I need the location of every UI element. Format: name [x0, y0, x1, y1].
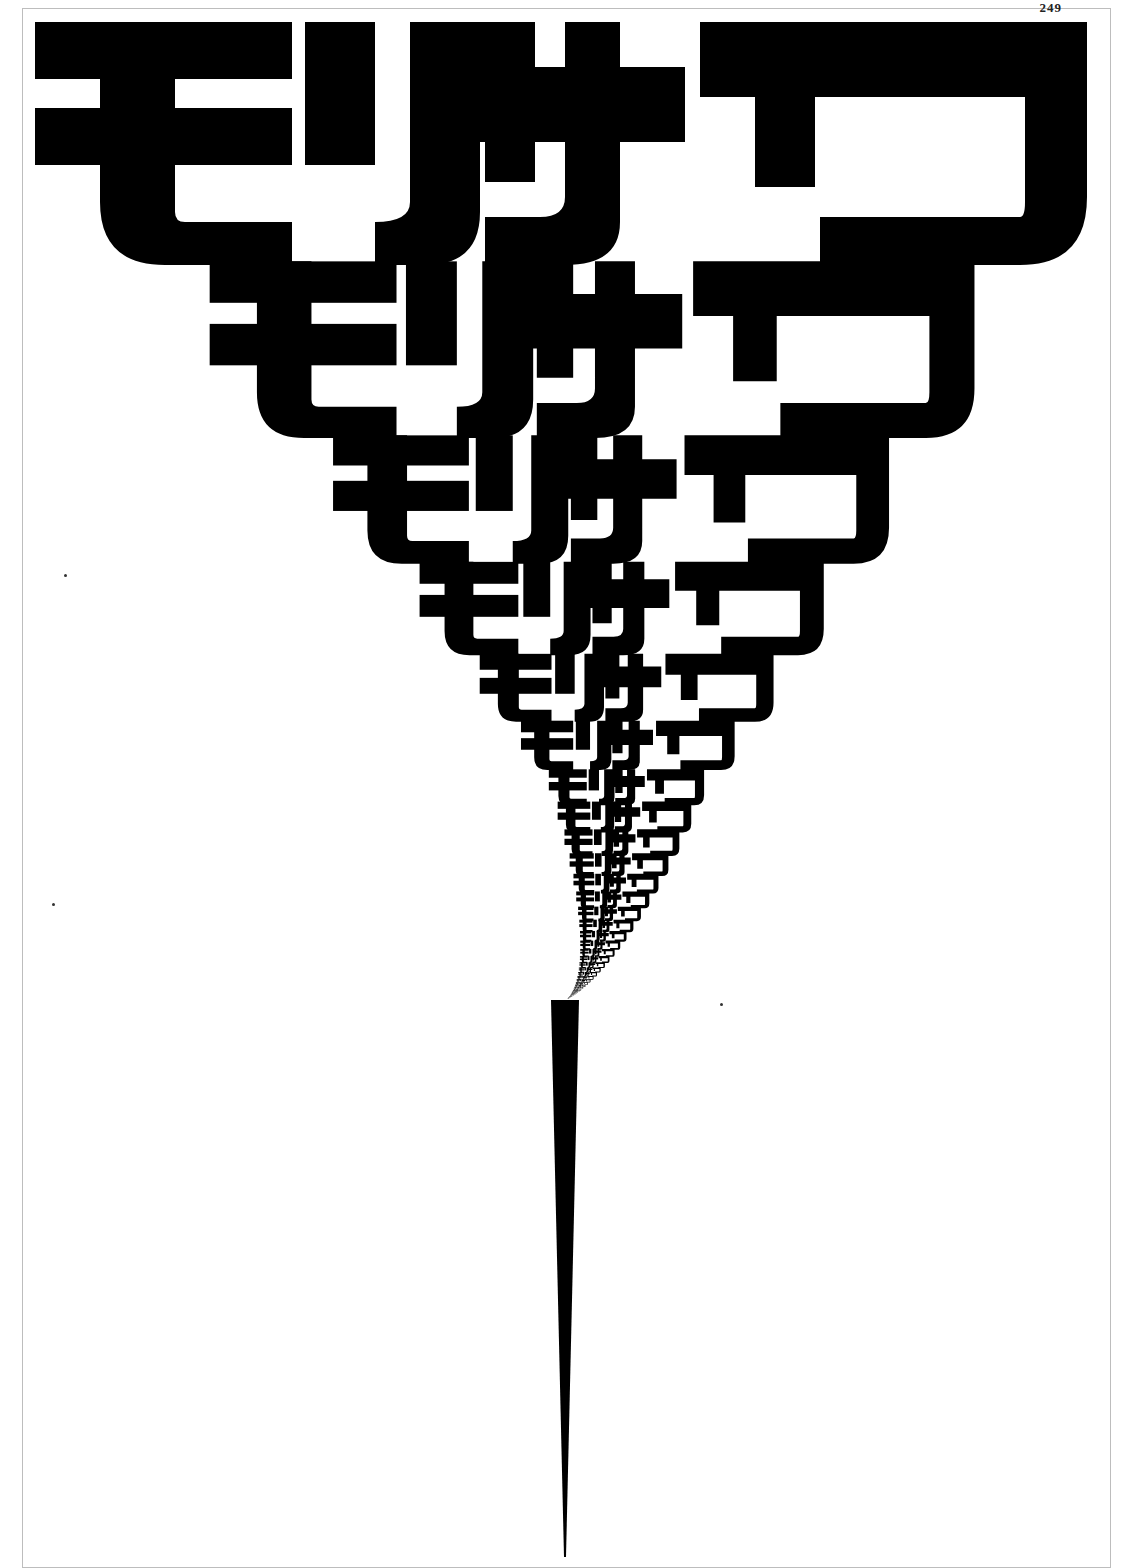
word-row: [521, 721, 735, 770]
word-row: [580, 956, 610, 963]
word-row: [564, 829, 679, 856]
word-row: [571, 995, 575, 996]
word-row: [570, 996, 573, 997]
word-row: [580, 941, 620, 950]
word-row: [35, 22, 1087, 265]
word-row: [573, 990, 580, 992]
word-row: [572, 993, 577, 994]
cascade-tail: [551, 1000, 579, 1557]
word-row: [577, 976, 593, 980]
word-row: [480, 654, 774, 722]
paper-speck: [720, 1003, 723, 1006]
word-row: [210, 261, 975, 438]
word-row: [570, 853, 669, 876]
word-row: [574, 987, 583, 989]
word-row: [580, 949, 614, 957]
word-row: [579, 967, 601, 972]
word-row: [570, 995, 573, 996]
word-row: [577, 979, 591, 982]
word-row: [558, 802, 692, 833]
word-row: [571, 994, 575, 995]
paper-speck: [52, 903, 55, 906]
word-row: [574, 989, 582, 991]
word-row: [420, 562, 824, 655]
word-row: [572, 992, 578, 993]
word-row: [575, 985, 585, 987]
word-row: [580, 931, 626, 942]
word-row: [579, 962, 604, 968]
word-row: [579, 920, 633, 932]
word-row: [333, 435, 889, 563]
word-row: [549, 769, 704, 805]
word-row: [578, 907, 641, 922]
word-row: [578, 972, 597, 976]
word-row: [573, 874, 658, 894]
word-row: [576, 891, 649, 908]
word-row: [576, 982, 588, 985]
paper-speck: [64, 574, 67, 577]
word-row: [569, 997, 571, 998]
